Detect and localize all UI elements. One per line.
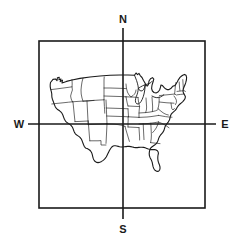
compass-label-west: W: [11, 119, 27, 130]
map-canvas: [0, 0, 239, 248]
compass-label-east: E: [217, 119, 233, 130]
compass-map-figure: N S W E: [0, 0, 239, 248]
compass-label-south: S: [113, 224, 133, 235]
compass-label-north: N: [113, 14, 133, 25]
